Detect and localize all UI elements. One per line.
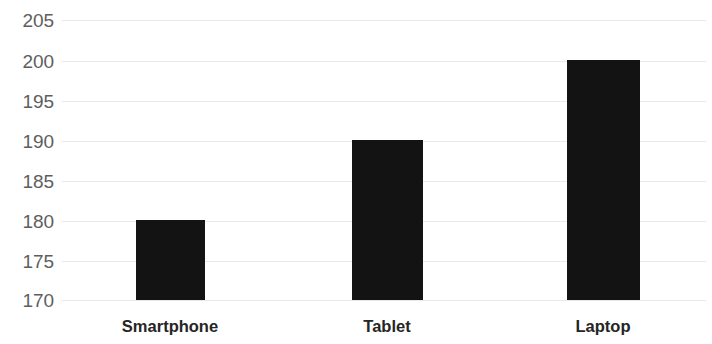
bar-smartphone[interactable] — [136, 220, 205, 300]
bar-tablet[interactable] — [352, 140, 423, 300]
y-axis-tick-label: 200 — [0, 52, 54, 71]
plot-area: 205 200 195 190 185 180 175 170 Smartpho… — [0, 0, 712, 344]
bar-chart: 205 200 195 190 185 180 175 170 Smartpho… — [0, 0, 712, 344]
y-axis-tick-label: 185 — [0, 172, 54, 191]
y-axis-tick-label: 180 — [0, 212, 54, 231]
gridline-170-baseline — [62, 300, 706, 301]
bar-laptop[interactable] — [567, 60, 640, 300]
y-axis-tick-label: 175 — [0, 252, 54, 271]
y-axis-tick-label: 195 — [0, 92, 54, 111]
y-axis-tick-label: 205 — [0, 11, 54, 30]
x-axis-label-laptop: Laptop — [576, 318, 631, 335]
y-axis-tick-label: 170 — [0, 291, 54, 310]
x-axis-label-tablet: Tablet — [363, 318, 410, 335]
y-axis-tick-label: 190 — [0, 132, 54, 151]
x-axis-label-smartphone: Smartphone — [122, 318, 218, 335]
gridline-205 — [62, 20, 706, 21]
